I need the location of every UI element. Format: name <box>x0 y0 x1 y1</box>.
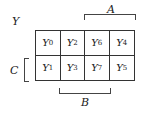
cell-y6: Y6 <box>85 31 110 56</box>
cell-y5: Y5 <box>110 56 135 81</box>
variable-a-bracket <box>84 14 136 20</box>
cell-y4: Y4 <box>110 31 135 56</box>
variable-c-label: C <box>10 65 18 76</box>
cell-y7: Y7 <box>85 56 110 81</box>
cell-y1: Y1 <box>36 56 61 81</box>
variable-b-bracket <box>59 88 111 94</box>
cell-y0: Y0 <box>36 31 61 56</box>
cell-y3: Y3 <box>61 56 86 81</box>
karnaugh-map-grid: Y0 Y2 Y6 Y4 Y1 Y3 Y7 Y5 <box>35 30 135 81</box>
output-label: Y <box>12 16 19 27</box>
variable-c-bracket <box>24 58 29 82</box>
cell-y2: Y2 <box>61 31 86 56</box>
variable-b-label: B <box>81 97 89 108</box>
